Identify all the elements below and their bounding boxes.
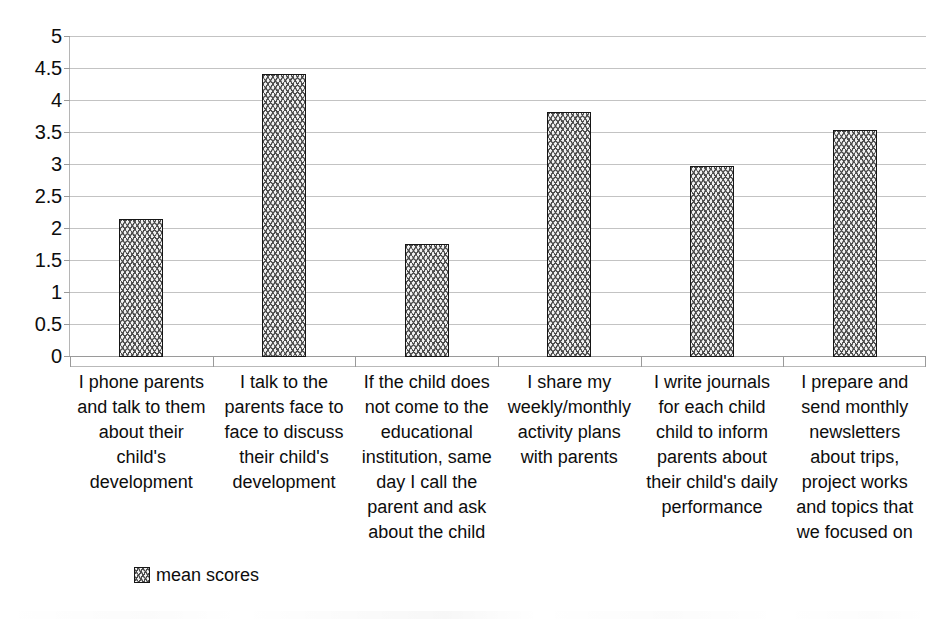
bar[interactable] [119, 219, 163, 357]
x-axis-category-label: I talk to the parents face to face to di… [213, 370, 356, 555]
y-tick-label: 3.5 [0, 122, 62, 142]
bar-slot [70, 36, 213, 357]
y-tick-label: 0.5 [0, 314, 62, 334]
x-axis-tick [925, 356, 926, 367]
x-axis-category-label: I prepare and send monthly newsletters a… [783, 370, 926, 555]
x-axis-category-label: I write journals for each child child to… [641, 370, 784, 555]
y-tick-label: 1 [0, 282, 62, 302]
y-tick-label: 1.5 [0, 250, 62, 270]
x-axis-category-label: I phone parents and talk to them about t… [70, 370, 213, 555]
x-axis-ticks [70, 356, 926, 368]
bars-layer [70, 36, 926, 357]
x-axis-category-label: If the child does not come to the educat… [355, 370, 498, 555]
y-tick-label: 4 [0, 90, 62, 110]
y-tick-label: 4.5 [0, 58, 62, 78]
x-axis-tick [355, 356, 356, 367]
x-axis-category-labels: I phone parents and talk to them about t… [70, 370, 926, 555]
bar-slot [498, 36, 641, 357]
y-tick-label: 5 [0, 26, 62, 46]
bar[interactable] [547, 112, 591, 357]
scan-artifact [0, 611, 929, 619]
bar-chart: 5 4.5 4 3.5 3 2.5 2 1.5 1 0.5 0 I phone … [0, 0, 929, 619]
x-axis-tick [70, 356, 71, 367]
y-tick-label: 3 [0, 154, 62, 174]
bar-slot [355, 36, 498, 357]
bar[interactable] [833, 130, 877, 357]
legend: mean scores [134, 565, 259, 585]
plot-area [70, 36, 926, 356]
y-tick-label: 2 [0, 218, 62, 238]
y-axis-tick-labels: 5 4.5 4 3.5 3 2.5 2 1.5 1 0.5 0 [0, 0, 62, 619]
bar-slot [213, 36, 356, 357]
bar[interactable] [690, 166, 734, 357]
x-axis-category-label: I share my weekly/monthly activity plans… [498, 370, 641, 555]
x-axis-tick [498, 356, 499, 367]
x-axis-tick [213, 356, 214, 367]
x-axis-tick [783, 356, 784, 367]
y-tick-label: 0 [0, 346, 62, 366]
bar[interactable] [405, 244, 449, 357]
bar-slot [641, 36, 784, 357]
x-axis-tick [641, 356, 642, 367]
legend-label: mean scores [156, 565, 259, 585]
bar-slot [783, 36, 926, 357]
bar[interactable] [262, 74, 306, 357]
y-tick-label: 2.5 [0, 186, 62, 206]
legend-swatch-icon [134, 567, 150, 583]
